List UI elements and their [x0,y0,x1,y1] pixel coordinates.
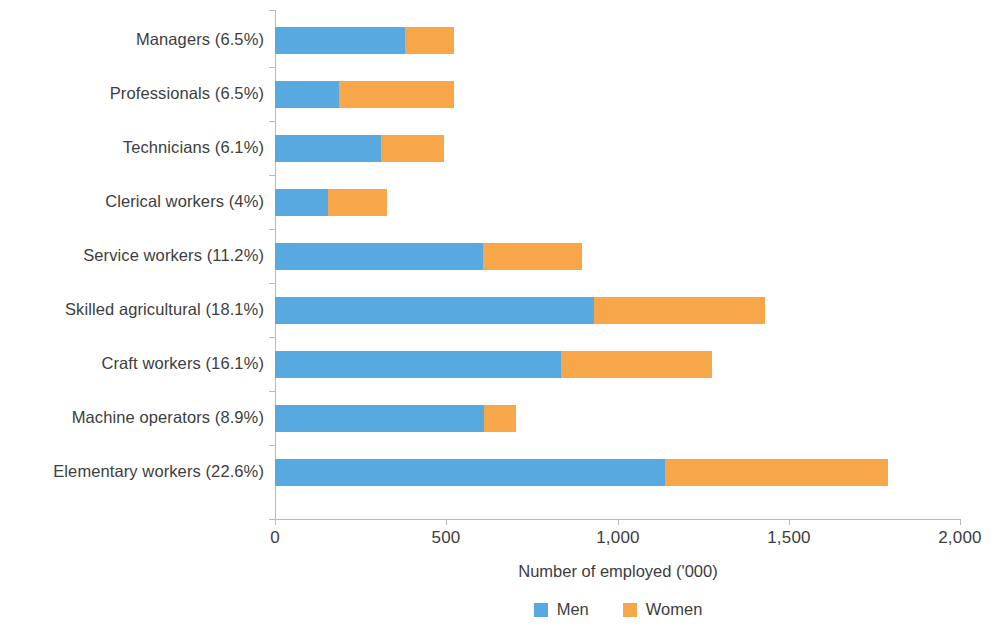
bar-segment-women[interactable] [561,351,712,378]
bar-row [0,243,992,270]
x-axis-tick [618,519,619,525]
y-axis-tick [269,10,275,11]
y-axis-tick [269,445,275,446]
bar-row [0,189,992,216]
x-axis-title: Number of employed ('000) [275,562,961,581]
bar-row [0,27,992,54]
bar-row [0,351,992,378]
bar-segment-men[interactable] [275,297,594,324]
y-axis-tick [269,175,275,176]
bar-segment-women[interactable] [594,297,765,324]
x-axis-tick [275,519,276,525]
y-axis-tick [269,283,275,284]
stacked-bar-chart: Managers (6.5%) Professionals (6.5%) Tec… [0,0,992,628]
bar-segment-men[interactable] [275,81,339,108]
bar-row [0,405,992,432]
bar-segment-men[interactable] [275,27,405,54]
x-axis-tick [960,519,961,525]
legend-swatch-women [623,603,637,617]
legend-label-men: Men [557,600,589,619]
x-axis-tick-label: 1,500 [744,528,834,548]
bar-segment-men[interactable] [275,243,483,270]
x-axis-tick-label: 0 [230,528,320,548]
bar-segment-men[interactable] [275,135,381,162]
bar-row [0,135,992,162]
y-axis-tick [269,121,275,122]
chart-legend: Men Women [275,600,961,619]
x-axis-tick-label: 1,000 [573,528,663,548]
x-axis-tick [446,519,447,525]
x-axis-tick-label: 2,000 [915,528,992,548]
bar-segment-men[interactable] [275,405,484,432]
bar-row [0,459,992,486]
bar-row [0,81,992,108]
bar-row [0,297,992,324]
bar-segment-men[interactable] [275,189,328,216]
bar-segment-women[interactable] [483,243,582,270]
bar-segment-women[interactable] [339,81,454,108]
bar-segment-women[interactable] [405,27,454,54]
bar-segment-men[interactable] [275,351,561,378]
legend-swatch-men [534,603,548,617]
legend-item-men[interactable]: Men [534,600,589,619]
bar-segment-women[interactable] [381,135,444,162]
y-axis-tick [269,67,275,68]
x-axis-tick-label: 500 [401,528,491,548]
bar-segment-women[interactable] [328,189,387,216]
legend-item-women[interactable]: Women [623,600,703,619]
bar-segment-women[interactable] [665,459,888,486]
y-axis-tick [269,391,275,392]
y-axis-tick [269,229,275,230]
bar-segment-women[interactable] [484,405,516,432]
y-axis-tick [269,337,275,338]
legend-label-women: Women [646,600,703,619]
x-axis-tick [789,519,790,525]
bar-segment-men[interactable] [275,459,665,486]
